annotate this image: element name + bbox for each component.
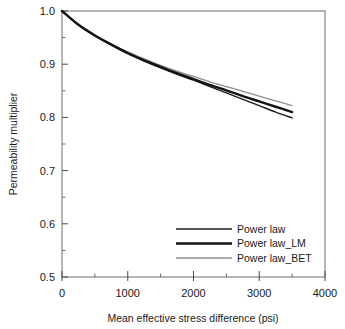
x-axis-title: Mean effective stress difference (psi) (107, 312, 278, 324)
y-tick-label: 0.8 (40, 111, 55, 123)
legend-label-2: Power law_BET (237, 252, 312, 264)
chart-svg: 0.50.60.70.80.91.0 01000200030004000 Mea… (0, 0, 345, 329)
y-tick-label: 0.9 (40, 58, 55, 70)
y-tick-label: 0.7 (40, 165, 55, 177)
y-tick-label: 0.6 (40, 218, 55, 230)
y-tick-label: 0.5 (40, 271, 55, 283)
x-tick-label: 2000 (181, 287, 205, 299)
chart-container: 0.50.60.70.80.91.0 01000200030004000 Mea… (0, 0, 345, 329)
x-tick-label: 4000 (313, 287, 337, 299)
y-tick-label: 1.0 (40, 5, 55, 17)
x-tick-label: 3000 (247, 287, 271, 299)
x-tick-label: 0 (59, 287, 65, 299)
legend-label-1: Power law_LM (237, 237, 306, 249)
y-axis-title: Permeability multiplier (7, 92, 19, 195)
x-tick-label: 1000 (116, 287, 140, 299)
legend-label-0: Power law (237, 223, 286, 235)
